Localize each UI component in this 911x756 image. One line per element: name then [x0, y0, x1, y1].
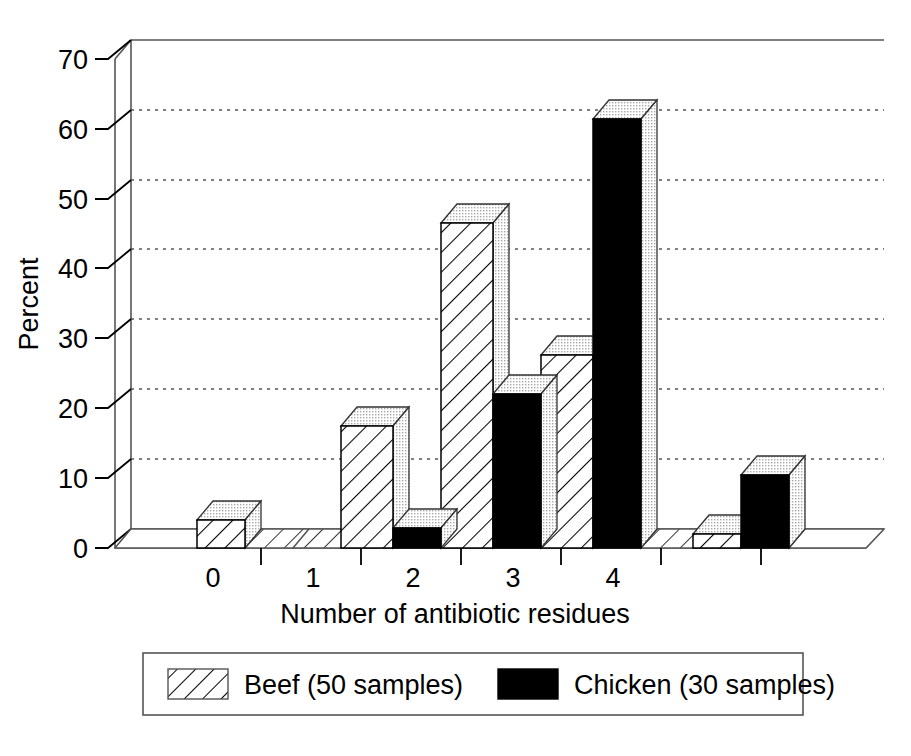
y-tick-label: 50	[58, 185, 88, 215]
bar-front-face	[493, 394, 541, 548]
legend-item-chicken[interactable]: Chicken (30 samples)	[498, 669, 835, 700]
bar-group-0	[197, 501, 261, 548]
solid-black-swatch-icon	[498, 669, 558, 699]
bar-front-face	[441, 223, 493, 548]
bar-chicken-3	[593, 100, 657, 548]
bar-front-face	[593, 119, 641, 548]
bar-chicken-2	[493, 375, 557, 548]
y-tick-label: 10	[58, 464, 88, 494]
x-tick-label: 0	[205, 563, 220, 593]
x-tick-label: 2	[405, 563, 420, 593]
x-tick-label: 4	[605, 563, 620, 593]
x-axis-title: Number of antibiotic residues	[280, 599, 630, 629]
x-tick-label: 3	[505, 563, 520, 593]
bar-front-face	[197, 520, 245, 548]
y-tick-label: 0	[73, 534, 88, 564]
chart-figure: 70 60 50 40 30 20 10 0 Percent	[0, 0, 911, 756]
bar-chart-3d: 70 60 50 40 30 20 10 0 Percent	[0, 0, 911, 756]
y-tick-label: 30	[58, 324, 88, 354]
x-tick-label: 1	[305, 563, 320, 593]
y-tick-label: 60	[58, 115, 88, 145]
bar-front-face	[393, 528, 441, 548]
bar-beef-0	[197, 501, 261, 548]
bar-front-face	[341, 426, 393, 548]
legend-item-beef[interactable]: Beef (50 samples)	[168, 669, 463, 700]
bar-front-face	[741, 475, 789, 548]
y-axis-title: Percent	[14, 257, 44, 351]
bar-side-face	[641, 100, 657, 548]
bar-chicken-4	[741, 456, 805, 548]
y-tick-label: 40	[58, 254, 88, 284]
hatch-swatch-icon	[168, 669, 228, 699]
legend-label-chicken: Chicken (30 samples)	[574, 670, 835, 700]
bar-front-face	[693, 534, 741, 548]
legend: Beef (50 samples) Chicken (30 samples)	[143, 653, 835, 715]
y-tick-label: 20	[58, 394, 88, 424]
bar-side-face	[541, 375, 557, 548]
legend-label-beef: Beef (50 samples)	[244, 670, 463, 700]
y-tick-label: 70	[58, 45, 88, 75]
